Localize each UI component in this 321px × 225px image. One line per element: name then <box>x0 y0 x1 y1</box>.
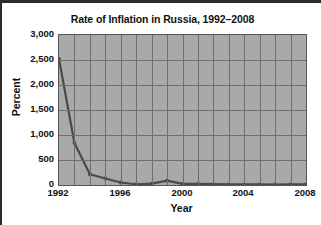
gridline-horizontal <box>59 160 306 161</box>
y-axis-label: Percent <box>10 62 22 132</box>
x-axis-tick-label: 2000 <box>160 187 204 198</box>
x-axis-tick-label: 1996 <box>98 187 142 198</box>
gridline-horizontal <box>59 60 306 61</box>
y-axis-tick-label: 500 <box>12 154 54 164</box>
gridline-horizontal <box>59 135 306 136</box>
x-axis-tick-label: 1992 <box>36 187 80 198</box>
x-axis-tick-label: 2004 <box>221 187 265 198</box>
data-point-marker <box>304 182 307 186</box>
plot-area <box>58 34 307 186</box>
gridline-horizontal <box>59 110 306 111</box>
x-axis-tick-label: 2008 <box>283 187 321 198</box>
gridline-horizontal <box>59 85 306 86</box>
chart-title: Rate of Inflation in Russia, 1992–2008 <box>2 13 321 25</box>
chart-figure: Rate of Inflation in Russia, 1992–2008 0… <box>0 0 321 225</box>
x-axis-tick-labels: 19921996200020042008 <box>58 187 305 200</box>
y-axis-tick-label: 3,000 <box>12 29 54 39</box>
x-axis-label: Year <box>58 202 305 214</box>
